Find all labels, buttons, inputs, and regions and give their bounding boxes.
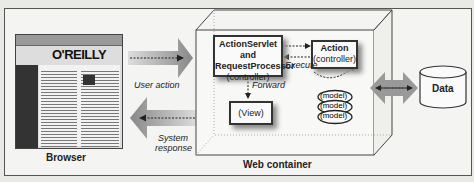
action-line2: (controller): [313, 54, 356, 65]
user-action-label: User action: [134, 80, 180, 90]
model-2: (model): [320, 101, 347, 110]
controller-line1: ActionServlet and: [215, 39, 281, 61]
view-label: (View): [238, 108, 263, 118]
controller-box: ActionServlet and RequestProcessor (cont…: [213, 35, 283, 77]
user-action-arrow: [128, 38, 193, 78]
model-1: (model): [320, 91, 347, 100]
forward-label: Forward: [252, 80, 285, 90]
system-response-label-2: response: [155, 143, 192, 153]
action-box: Action (controller): [311, 40, 358, 69]
controller-line2: RequestProcessor: [215, 61, 281, 72]
system-response-label-1: System: [158, 133, 188, 143]
diagram-connectors: [0, 0, 474, 182]
data-label: Data: [432, 83, 454, 94]
web-container-label: Web container: [243, 159, 312, 170]
view-box: (View): [229, 101, 273, 125]
model-3: (model): [320, 111, 347, 120]
action-line1: Action: [313, 43, 356, 54]
execute-label: Execute: [285, 60, 318, 70]
